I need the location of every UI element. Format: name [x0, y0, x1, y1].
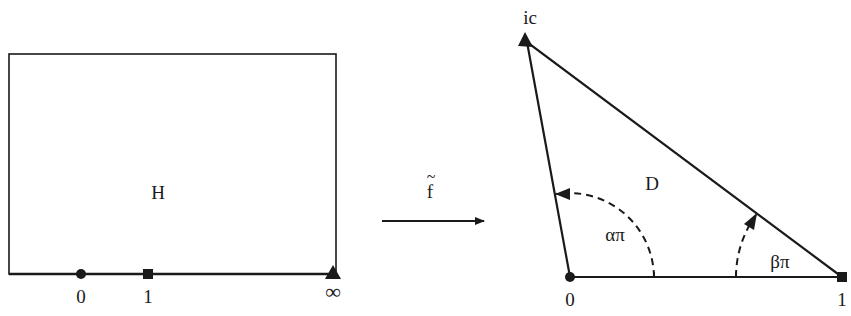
label-one: 1	[143, 286, 153, 307]
half-plane-panel: H 0 1 ∞	[9, 54, 341, 307]
vertex-ic-triangle-icon	[518, 32, 533, 47]
point-zero-circle-icon	[76, 269, 86, 279]
label-vertex-one: 1	[837, 289, 847, 310]
label-zero: 0	[76, 286, 86, 307]
point-infinity-triangle-icon	[325, 265, 341, 279]
angle-alpha-label: απ	[605, 224, 625, 245]
angle-beta-arrow-icon	[744, 213, 757, 230]
triangle-boundary	[527, 42, 842, 277]
half-plane-boundary	[9, 54, 336, 274]
mapping-arrow: f ~	[382, 168, 484, 221]
vertex-zero-circle-icon	[565, 272, 575, 282]
region-label-h: H	[151, 182, 165, 203]
label-vertex-zero: 0	[565, 289, 575, 310]
angle-beta-label: βπ	[770, 251, 790, 272]
label-infinity: ∞	[325, 279, 341, 304]
figure-canvas: H 0 1 ∞ f ~ ic 0 1 D	[0, 0, 851, 316]
conformal-map-figure: H 0 1 ∞ f ~ ic 0 1 D	[0, 0, 851, 316]
region-label-d: D	[645, 173, 659, 194]
mapping-tilde: ~	[427, 168, 436, 185]
point-one-square-icon	[143, 269, 153, 279]
label-ic: ic	[523, 7, 537, 28]
angle-alpha-arrow-icon	[555, 188, 570, 200]
triangle-panel: ic 0 1 D απ βπ	[518, 7, 847, 310]
vertex-one-square-icon	[837, 272, 847, 282]
